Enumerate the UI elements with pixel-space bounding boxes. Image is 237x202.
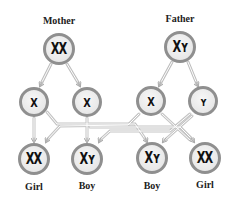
xy-chromosome-icon: Xʏ: [144, 149, 159, 167]
mother-cell: XX: [43, 33, 75, 65]
x-chromosome-icon: X: [148, 94, 155, 109]
gamete-father-x: X: [136, 86, 166, 116]
mother-label: Mother: [34, 15, 84, 26]
parent-to-gamete-arrows: [41, 62, 197, 84]
father-cell: Xʏ: [164, 31, 196, 63]
offspring-label-boy-2: Boy: [127, 180, 177, 191]
gamete-mother-x1: X: [19, 87, 49, 117]
x-chromosome-icon: X: [84, 95, 91, 110]
offspring-label-girl-2: Girl: [180, 179, 230, 190]
xx-chromosome-icon: XX: [26, 150, 42, 168]
x-chromosome-icon: X: [31, 95, 38, 110]
offspring-girl-2: XX: [189, 142, 221, 174]
xy-chromosome-icon: Xʏ: [172, 38, 187, 56]
gamete-mother-x2: X: [72, 87, 102, 117]
y-chromosome-icon: ʏ: [200, 94, 206, 109]
xx-chromosome-icon: XX: [197, 149, 213, 167]
offspring-girl-1: XX: [18, 143, 50, 175]
xy-chromosome-icon: Xʏ: [79, 150, 94, 168]
offspring-boy-2: Xʏ: [136, 142, 168, 174]
gamete-father-y: ʏ: [188, 86, 218, 116]
father-label: Father: [155, 13, 205, 24]
offspring-label-boy-1: Boy: [62, 180, 112, 191]
offspring-label-girl-1: Girl: [9, 181, 59, 192]
offspring-boy-1: Xʏ: [71, 143, 103, 175]
xx-chromosome-icon: XX: [51, 40, 67, 58]
